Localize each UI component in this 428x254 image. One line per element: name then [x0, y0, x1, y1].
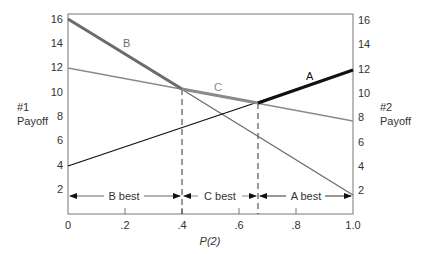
right-tick-10: 10	[358, 87, 370, 99]
left-tick-14: 14	[51, 37, 63, 49]
series-b-label: B	[123, 37, 130, 49]
x-axis-title: P(2)	[200, 235, 221, 247]
region-c-best: C best	[184, 190, 256, 202]
series-a-label: A	[306, 70, 314, 82]
left-axis-title-line2: Payoff	[17, 115, 49, 127]
region-a-label: A best	[291, 190, 322, 202]
region-c-label: C best	[204, 190, 236, 202]
decision-payoff-chart: 16 14 12 10 8 6 4 2 16 14 12 10 8 6 4 2 …	[0, 0, 428, 254]
x-axis: 0 .2 .4 .6 .8 1.0	[65, 219, 361, 231]
right-axis-title-line1: #2	[380, 101, 392, 113]
left-tick-6: 6	[57, 134, 63, 146]
left-tick-4: 4	[57, 159, 63, 171]
x-tick-0.2: .2	[120, 219, 129, 231]
x-tick-0.6: .6	[234, 219, 243, 231]
x-tick-0.4: .4	[177, 219, 186, 231]
left-tick-2: 2	[57, 183, 63, 195]
left-tick-16: 16	[51, 13, 63, 25]
right-tick-4: 4	[358, 160, 364, 172]
right-tick-6: 6	[358, 136, 364, 148]
left-tick-8: 8	[57, 110, 63, 122]
right-tick-8: 8	[358, 111, 364, 123]
region-a-best: A best	[260, 190, 351, 202]
right-axis-title-line2: Payoff	[380, 115, 412, 127]
region-b-best: B best	[70, 190, 180, 202]
right-tick-2: 2	[358, 184, 364, 196]
x-tick-0.8: .8	[291, 219, 300, 231]
left-tick-12: 12	[51, 61, 63, 73]
left-y-axis: 16 14 12 10 8 6 4 2	[51, 13, 63, 195]
right-tick-14: 14	[358, 38, 370, 50]
right-y-axis: 16 14 12 10 8 6 4 2	[358, 14, 370, 196]
right-tick-16: 16	[358, 14, 370, 26]
x-tick-1.0: 1.0	[345, 219, 360, 231]
right-tick-12: 12	[358, 63, 370, 75]
x-tick-0: 0	[65, 219, 71, 231]
x-axis-ticks	[125, 208, 296, 214]
left-axis-title-line1: #1	[17, 101, 29, 113]
region-b-label: B best	[108, 190, 139, 202]
left-tick-10: 10	[51, 86, 63, 98]
series-c-label: C	[214, 81, 222, 93]
